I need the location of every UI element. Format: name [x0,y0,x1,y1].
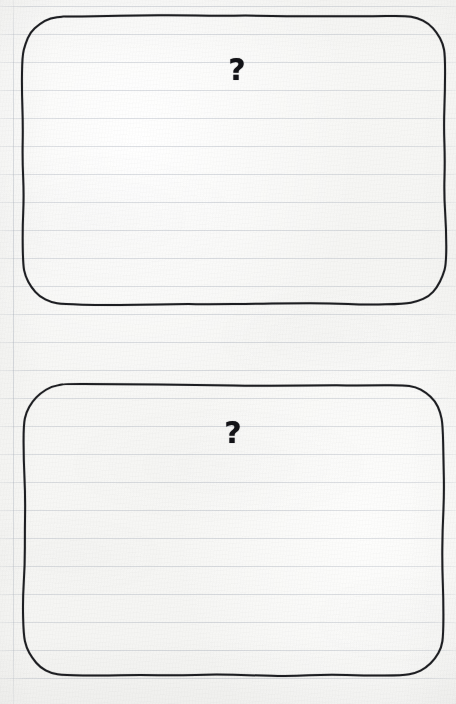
answer-box-bottom[interactable]: ? [24,385,443,675]
question-mark-top: ? [228,55,245,85]
answer-box-top[interactable]: ? [23,16,445,304]
worksheet-page: ? ? [0,0,456,704]
question-mark-bottom: ? [224,418,241,448]
